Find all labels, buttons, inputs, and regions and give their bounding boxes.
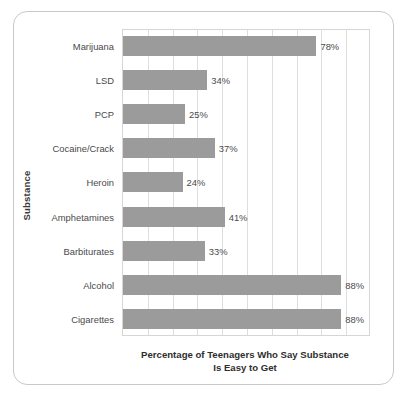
bar-row: Alcohol88% <box>0 268 409 302</box>
bar-value-label: 41% <box>229 211 248 222</box>
bar[interactable] <box>123 309 341 329</box>
category-label: Barbiturates <box>63 245 114 256</box>
bar[interactable] <box>123 104 185 124</box>
category-label: Amphetamines <box>51 211 114 222</box>
bar-value-label: 24% <box>187 177 206 188</box>
bar-value-label: 33% <box>209 245 228 256</box>
bar-row: PCP25% <box>0 97 409 131</box>
bar[interactable] <box>123 275 341 295</box>
category-label: Heroin <box>86 177 114 188</box>
bar[interactable] <box>123 138 215 158</box>
bar[interactable] <box>123 241 205 261</box>
bar-row: Amphetamines41% <box>0 200 409 234</box>
x-axis-title-line-1: Percentage of Teenagers Who Say Substanc… <box>100 348 390 361</box>
bar-row: LSD34% <box>0 63 409 97</box>
bar-value-label: 37% <box>219 143 238 154</box>
bar-value-label: 88% <box>345 313 364 324</box>
category-label: Cigarettes <box>71 313 114 324</box>
bar[interactable] <box>123 172 183 192</box>
category-label: Alcohol <box>83 279 114 290</box>
bar-row: Cocaine/Crack37% <box>0 131 409 165</box>
category-label: PCP <box>95 109 114 120</box>
bar-row: Marijuana78% <box>0 29 409 63</box>
bars-layer: Marijuana78%LSD34%PCP25%Cocaine/Crack37%… <box>0 29 409 336</box>
x-axis-title: Percentage of Teenagers Who Say Substanc… <box>100 348 390 374</box>
bar[interactable] <box>123 207 225 227</box>
bar-value-label: 25% <box>189 109 208 120</box>
bar-value-label: 34% <box>211 75 230 86</box>
bar-value-label: 88% <box>345 279 364 290</box>
x-axis-title-line-2: Is Easy to Get <box>100 361 390 374</box>
bar[interactable] <box>123 36 316 56</box>
bar-value-label: 78% <box>320 41 339 52</box>
category-label: LSD <box>96 75 114 86</box>
bar-row: Cigarettes88% <box>0 302 409 336</box>
category-label: Cocaine/Crack <box>53 143 114 154</box>
bar[interactable] <box>123 70 207 90</box>
bar-row: Barbiturates33% <box>0 234 409 268</box>
category-label: Marijuana <box>73 41 114 52</box>
bar-row: Heroin24% <box>0 165 409 199</box>
